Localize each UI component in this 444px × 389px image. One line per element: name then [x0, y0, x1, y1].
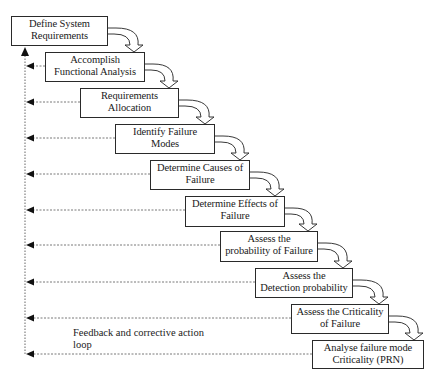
left-arrow-icon [26, 351, 34, 358]
step-label-line1: Determine Causes of [151, 162, 249, 174]
step-assess-probability: Assess the probability of Failure [220, 231, 318, 262]
step-label-line2: Requirements [12, 30, 107, 42]
left-arrow-icon [26, 207, 34, 214]
left-arrow-icon [26, 171, 34, 178]
bent-arrow-icon [179, 100, 214, 124]
bent-arrow-icon [145, 64, 178, 88]
left-arrow-icon [26, 242, 34, 249]
step-label-line1: Define System [12, 18, 107, 30]
step-label-line2: Modes [116, 138, 214, 150]
step-label-line2: Allocation [81, 102, 178, 114]
step-label-line2: Failure [186, 210, 284, 222]
step-accomplish-functional-analysis: Accomplish Functional Analysis [45, 52, 145, 82]
bent-arrow-icon [285, 208, 317, 231]
left-arrow-icon [26, 63, 34, 70]
step-determine-causes: Determine Causes of Failure [150, 160, 250, 190]
step-label-line2: Functional Analysis [46, 66, 144, 78]
step-label-line1: Assess the [256, 270, 352, 282]
step-define-system-requirements: Define System Requirements [11, 16, 108, 46]
left-arrow-icon [26, 135, 34, 142]
step-label-line1: Determine Effects of [186, 198, 284, 210]
step-label-line1: Identify Failure [116, 126, 214, 138]
step-requirements-allocation: Requirements Allocation [80, 88, 179, 118]
step-label-line2: Failure [151, 174, 249, 186]
step-label-line1: Assess the Criticality [292, 306, 388, 318]
up-arrow-icon [21, 47, 29, 56]
step-determine-effects: Determine Effects of Failure [185, 196, 285, 227]
fmea-process-diagram: Define System Requirements Accomplish Fu… [0, 0, 444, 389]
feedback-label-line1: Feedback and corrective action [73, 327, 204, 339]
step-label-line1: Assess the [221, 233, 317, 245]
feedback-loop-label: Feedback and corrective action loop [73, 327, 204, 351]
bent-arrow-icon [250, 172, 284, 196]
step-label-line1: Analyse failure mode [313, 342, 423, 354]
left-arrow-icon [26, 315, 34, 322]
step-label-line2: of Failure [292, 318, 388, 330]
step-label-line2: Criticality (PRN) [313, 354, 423, 366]
bent-arrow-icon [389, 316, 423, 340]
step-label-line1: Accomplish [46, 54, 144, 66]
bent-arrow-icon [108, 28, 143, 52]
step-assess-detection: Assess the Detection probability [255, 268, 353, 298]
bent-arrow-icon [318, 243, 352, 268]
step-analyse-failure-mode-criticality: Analyse failure mode Criticality (PRN) [312, 340, 424, 369]
step-label-line2: probability of Failure [221, 245, 317, 257]
bent-arrow-icon [215, 136, 249, 160]
step-label-line2: Detection probability [256, 282, 352, 294]
left-arrow-icon [26, 99, 34, 106]
bent-arrow-icon [353, 280, 388, 304]
left-arrow-icon [26, 279, 34, 286]
step-label-line1: Requirements [81, 90, 178, 102]
feedback-label-line2: loop [73, 339, 204, 351]
step-assess-criticality: Assess the Criticality of Failure [291, 304, 389, 334]
step-identify-failure-modes: Identify Failure Modes [115, 124, 215, 154]
